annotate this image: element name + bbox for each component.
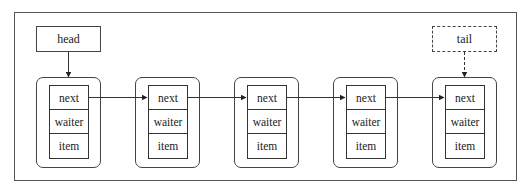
node-fields: next waiter item — [247, 85, 287, 159]
list-node-1: next waiter item — [36, 77, 101, 168]
node-fields: next waiter item — [148, 85, 188, 159]
node-fields: next waiter item — [49, 85, 89, 159]
field-item: item — [248, 134, 286, 158]
field-next: next — [347, 86, 385, 110]
list-node-5: next waiter item — [432, 77, 497, 168]
field-next: next — [50, 86, 88, 110]
field-waiter: waiter — [446, 110, 484, 134]
list-node-2: next waiter item — [135, 77, 200, 168]
list-node-3: next waiter item — [234, 77, 299, 168]
field-item: item — [50, 134, 88, 158]
head-label: head — [57, 32, 80, 47]
field-next: next — [149, 86, 187, 110]
tail-pointer-box: tail — [432, 26, 497, 52]
field-waiter: waiter — [248, 110, 286, 134]
field-item: item — [149, 134, 187, 158]
head-pointer-box: head — [36, 26, 101, 52]
field-next: next — [248, 86, 286, 110]
tail-label: tail — [457, 32, 472, 47]
node-fields: next waiter item — [346, 85, 386, 159]
field-waiter: waiter — [50, 110, 88, 134]
list-node-4: next waiter item — [333, 77, 398, 168]
node-fields: next waiter item — [445, 85, 485, 159]
field-waiter: waiter — [149, 110, 187, 134]
field-next: next — [446, 86, 484, 110]
field-item: item — [446, 134, 484, 158]
field-item: item — [347, 134, 385, 158]
field-waiter: waiter — [347, 110, 385, 134]
